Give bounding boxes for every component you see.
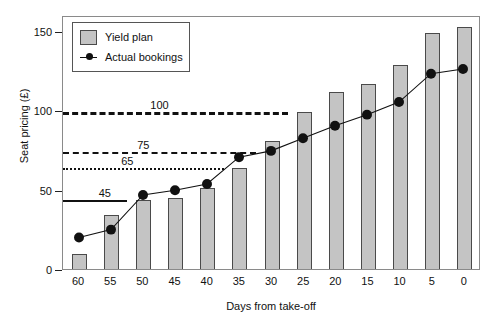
data-point-marker <box>298 133 308 143</box>
y-tick-mark <box>55 111 62 112</box>
x-tick-label: 45 <box>160 275 190 287</box>
x-tick-label: 60 <box>63 275 93 287</box>
chart-legend: Yield plan Actual bookings <box>72 22 190 72</box>
y-tick-label: 50 <box>24 185 52 197</box>
legend-label: Yield plan <box>105 31 153 43</box>
data-point-marker <box>234 152 244 162</box>
x-axis-title: Days from take-off <box>62 300 480 312</box>
data-point-marker <box>202 179 212 189</box>
data-point-marker <box>266 146 276 156</box>
x-tick-label: 0 <box>449 275 479 287</box>
data-point-marker <box>394 97 404 107</box>
chart-root: Seat pricing (£) Days from take-off 0501… <box>0 0 497 325</box>
y-tick-mark <box>55 32 62 33</box>
data-point-marker <box>458 64 468 74</box>
x-tick-label: 50 <box>127 275 157 287</box>
x-tick-label: 35 <box>224 275 254 287</box>
x-tick-label: 5 <box>417 275 447 287</box>
x-tick-label: 40 <box>192 275 222 287</box>
data-point-marker <box>138 190 148 200</box>
legend-label: Actual bookings <box>105 51 183 63</box>
legend-item-actual-bookings: Actual bookings <box>80 48 182 66</box>
data-point-marker <box>362 110 372 120</box>
x-tick-label: 55 <box>95 275 125 287</box>
y-axis-title: Seat pricing (£) <box>18 56 30 196</box>
data-point-marker <box>170 185 180 195</box>
data-point-marker <box>330 121 340 131</box>
legend-item-yield-plan: Yield plan <box>80 28 182 46</box>
line-marker-icon <box>80 50 97 65</box>
y-tick-label: 150 <box>24 26 52 38</box>
y-tick-label: 0 <box>24 264 52 276</box>
x-tick-label: 30 <box>256 275 286 287</box>
x-tick-label: 10 <box>385 275 415 287</box>
x-tick-label: 20 <box>320 275 350 287</box>
bar-swatch-icon <box>80 30 97 45</box>
y-tick-label: 100 <box>24 105 52 117</box>
y-tick-mark <box>55 191 62 192</box>
data-point-marker <box>106 225 116 235</box>
data-point-marker <box>426 69 436 79</box>
y-tick-mark <box>55 270 62 271</box>
x-tick-label: 25 <box>288 275 318 287</box>
x-tick-label: 15 <box>352 275 382 287</box>
data-point-marker <box>74 233 84 243</box>
